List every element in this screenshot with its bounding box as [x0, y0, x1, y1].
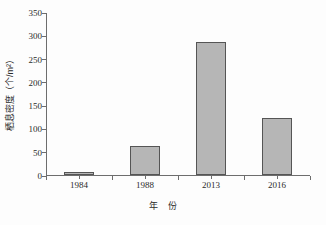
x-axis-tick-label: 2016 — [268, 180, 286, 190]
plot-area — [46, 13, 310, 176]
y-axis-title-label: 栖息密度（个/m²） — [3, 55, 16, 131]
y-axis-tick-label: 250 — [29, 55, 43, 64]
y-axis-tick — [42, 106, 46, 107]
y-axis-tick — [42, 82, 46, 83]
bar-chart-figure: 栖息密度（个/m²） 050100150200250300350 1984198… — [0, 0, 326, 225]
y-axis-tick — [42, 59, 46, 60]
y-axis-tick — [42, 13, 46, 14]
y-axis-tick-label: 350 — [29, 9, 43, 18]
y-axis-tick-label: 100 — [29, 125, 43, 134]
x-axis-title-first: 年 — [149, 201, 158, 211]
y-axis-tick — [42, 152, 46, 153]
y-axis-spine — [46, 13, 47, 176]
x-axis-minor-tick — [277, 176, 278, 179]
y-axis-tick-label: 50 — [33, 148, 42, 157]
y-axis-tick — [42, 36, 46, 37]
bar-2013 — [196, 42, 226, 175]
bar-2016 — [262, 118, 292, 175]
x-axis-title-second: 份 — [168, 201, 177, 211]
x-axis-title: 年份 — [0, 199, 326, 212]
x-axis-tick-labels: 1984198820132016 — [46, 180, 310, 194]
x-axis-minor-tick — [211, 176, 212, 179]
y-axis-tick-label: 150 — [29, 102, 43, 111]
x-axis-minor-tick — [79, 176, 80, 179]
x-axis-minor-tick — [145, 176, 146, 179]
y-axis-tick-label: 300 — [29, 32, 43, 41]
bar-1988 — [130, 146, 160, 175]
x-axis-tick — [310, 176, 311, 180]
y-axis-tick-label: 200 — [29, 78, 43, 87]
x-axis-tick-label: 2013 — [202, 180, 220, 190]
y-axis-tick — [42, 129, 46, 130]
x-axis-tick-label: 1988 — [136, 180, 154, 190]
y-axis-tick-labels: 050100150200250300350 — [16, 8, 42, 176]
bar-1984 — [64, 172, 94, 175]
x-axis-tick-label: 1984 — [70, 180, 88, 190]
